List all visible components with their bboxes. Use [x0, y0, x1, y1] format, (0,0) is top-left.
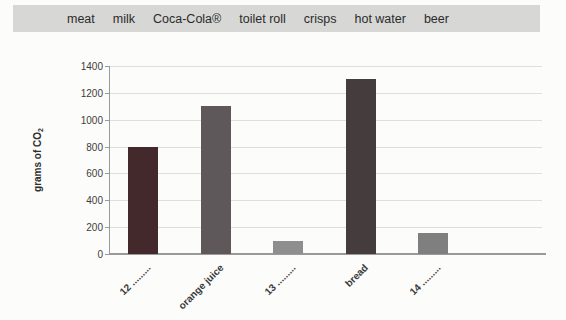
- x-tick-label-4: bread: [343, 262, 370, 289]
- bar-4: [346, 79, 376, 254]
- x-tick-label-5: 14 .........: [407, 262, 442, 297]
- word-bank-item: crisps: [304, 12, 337, 26]
- y-tick-label-200: 200: [63, 222, 103, 233]
- word-bank-item: meat: [67, 12, 95, 26]
- x-tick-label-2: orange juice: [176, 262, 225, 311]
- word-bank-item: milk: [113, 12, 135, 26]
- word-bank-item: toilet roll: [239, 12, 286, 26]
- y-axis-line: [109, 66, 110, 254]
- y-tick-label-1000: 1000: [63, 114, 103, 125]
- y-tick-label-600: 600: [63, 168, 103, 179]
- bar-2: [201, 106, 231, 254]
- word-bank-item: hot water: [354, 12, 405, 26]
- y-tick-label-1200: 1200: [63, 87, 103, 98]
- bar-3: [273, 241, 303, 254]
- word-bank-item: beer: [424, 12, 449, 26]
- gridline-600: [110, 173, 542, 174]
- gridline-1000: [110, 120, 542, 121]
- y-tick-label-1400: 1400: [63, 61, 103, 72]
- bar-1: [128, 147, 158, 254]
- y-tick-label-800: 800: [63, 141, 103, 152]
- scanned-textbook-chart-page: meatmilkCoca-Cola®toilet rollcrispshot w…: [0, 0, 566, 320]
- x-tick-label-1: 12 .........: [117, 262, 152, 297]
- bar-5: [418, 233, 448, 254]
- x-tick-label-3: 13 .........: [262, 262, 297, 297]
- y-axis-title-text: grams of CO: [32, 132, 43, 192]
- y-tick-label-400: 400: [63, 195, 103, 206]
- word-bank-item: Coca-Cola®: [153, 12, 221, 26]
- word-bank: meatmilkCoca-Cola®toilet rollcrispshot w…: [13, 5, 540, 32]
- x-axis-line: [109, 253, 546, 255]
- gridline-200: [110, 227, 542, 228]
- gridline-800: [110, 147, 542, 148]
- gridline-400: [110, 200, 542, 201]
- y-tick-label-0: 0: [63, 249, 103, 260]
- y-axis-title-subscript: 2: [37, 128, 44, 132]
- gridline-1200: [110, 93, 542, 94]
- gridline-1400: [110, 66, 542, 67]
- y-axis-title: grams of CO2: [32, 80, 44, 240]
